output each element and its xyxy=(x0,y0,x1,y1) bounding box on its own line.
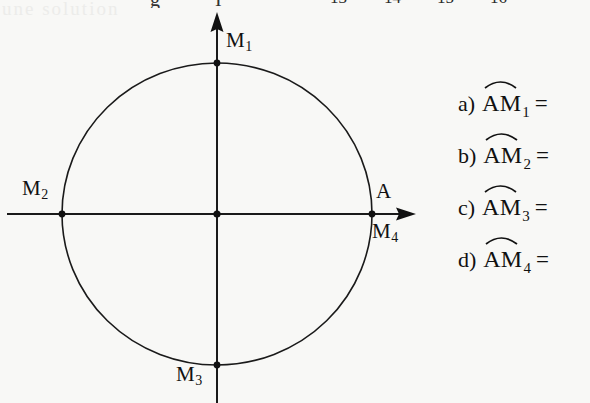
label-M2-subscript: 2 xyxy=(41,187,49,202)
answer-c-equals: = xyxy=(530,195,548,220)
label-M2: M2 xyxy=(22,178,48,202)
answer-row-b: b)AM2= xyxy=(458,140,590,192)
label-M1-letter: M xyxy=(226,28,245,52)
answers-list: a)AM1= b)AM2= c)AM3= d)AM4= xyxy=(458,88,590,296)
label-M4: M4 xyxy=(372,221,398,245)
answer-c-subscript: 3 xyxy=(521,208,530,224)
label-M4-letter: M xyxy=(372,219,391,243)
answer-b-am: AM xyxy=(483,142,522,168)
label-M1-subscript: 1 xyxy=(245,39,253,54)
scanned-worksheet-page: une solution g I 13 14 15 16 M1 M2 M3 M4 xyxy=(0,0,590,403)
label-A: A xyxy=(376,181,391,202)
answer-row-c: c)AM3= xyxy=(458,192,590,244)
answer-b-arc-expression: AM2 xyxy=(483,140,531,179)
point-M3-dot xyxy=(214,362,221,369)
label-M4-subscript: 4 xyxy=(391,230,399,245)
answer-a-arc-expression: AM1 xyxy=(482,88,530,127)
point-M2-dot xyxy=(59,211,66,218)
answer-d-equals: = xyxy=(531,247,549,272)
answer-a-am: AM xyxy=(482,90,521,116)
answer-d-arc-expression: AM4 xyxy=(483,244,531,283)
label-M3-letter: M xyxy=(176,362,195,386)
answer-row-a: a)AM1= xyxy=(458,88,590,140)
x-axis-arrowhead xyxy=(396,208,416,221)
answer-c-am: AM xyxy=(482,194,521,220)
label-A-letter: A xyxy=(376,179,391,203)
answer-a-equals: = xyxy=(530,91,548,116)
label-M3-subscript: 3 xyxy=(195,373,203,388)
label-M2-letter: M xyxy=(22,176,41,200)
answer-b-subscript: 2 xyxy=(522,156,531,172)
answer-d-letter: d) xyxy=(458,245,476,275)
label-M3: M3 xyxy=(176,364,202,388)
point-A-M4-dot xyxy=(369,211,376,218)
answer-a-subscript: 1 xyxy=(521,104,530,120)
point-origin-dot xyxy=(213,210,220,217)
answer-b-letter: b) xyxy=(458,141,476,171)
label-M1: M1 xyxy=(226,30,252,54)
answer-b-equals: = xyxy=(531,143,549,168)
answer-row-d: d)AM4= xyxy=(458,244,590,296)
answer-d-subscript: 4 xyxy=(522,260,531,276)
answer-d-am: AM xyxy=(483,246,522,272)
answer-c-letter: c) xyxy=(458,193,475,223)
answer-c-arc-expression: AM3 xyxy=(482,192,530,231)
point-M1-dot xyxy=(214,60,221,67)
y-axis-arrowhead xyxy=(211,12,224,32)
answer-a-letter: a) xyxy=(458,89,475,119)
